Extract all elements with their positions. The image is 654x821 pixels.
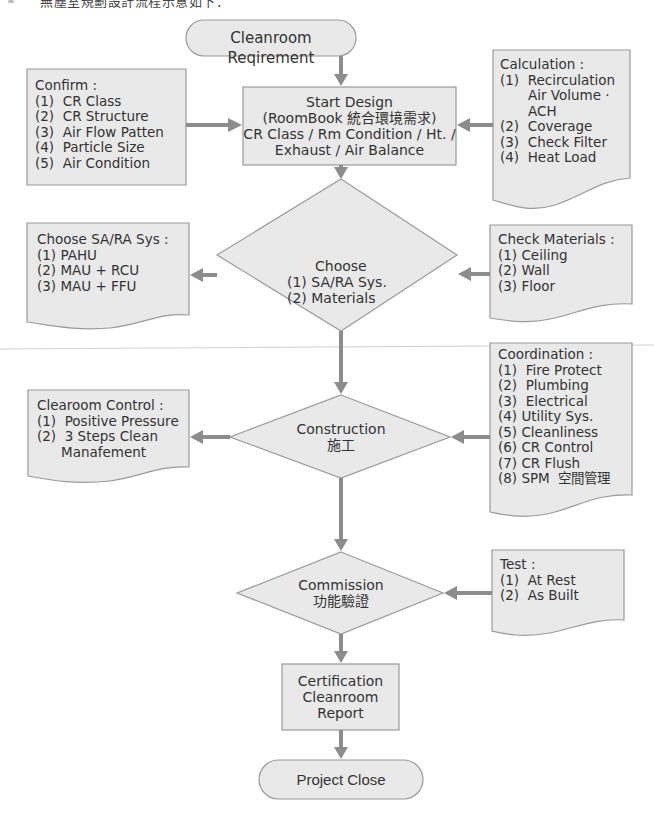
coordination-note-item: (3) Electrical <box>498 394 610 410</box>
choose-sys-note-title: Choose SA/RA Sys : <box>37 232 169 248</box>
start-node: Cleanroom Reqirement <box>186 28 356 68</box>
confirm-note-item: (3) Air Flow Patten <box>35 125 164 141</box>
choose-sys-note: Choose SA/RA Sys : (1) PAHU (2) MAU + RC… <box>37 232 169 294</box>
confirm-note-title: Confirm : <box>35 78 164 94</box>
choose-title: Choose <box>287 258 407 274</box>
start-design-line: Exhaust / Air Balance <box>243 142 456 158</box>
calculation-note-item: (4) Heat Load <box>500 150 615 166</box>
arrow-certification-to-end <box>334 730 348 759</box>
certification-line: Cleanroom <box>282 689 399 705</box>
choose-option: (1) SA/RA Sys. <box>287 274 407 290</box>
arrow-choose-to-sys <box>190 268 217 282</box>
test-note-title: Test : <box>500 557 579 573</box>
confirm-note-item: (1) CR Class <box>35 94 164 110</box>
clearoom-control-note-title: Clearoom Control : <box>37 398 179 414</box>
arrow-construction-to-control <box>190 430 230 444</box>
coordination-note-item: (2) Plumbing <box>498 378 610 394</box>
construction-subtitle: 施工 <box>276 437 406 453</box>
arrow-materials-to-choose <box>458 267 490 281</box>
coordination-note-item: (4) Utility Sys. <box>498 409 610 425</box>
arrow-confirm-to-design <box>186 118 242 132</box>
calculation-note-item-cont: Air Volume · <box>500 88 615 104</box>
coordination-note: Coordination : (1) Fire Protect (2) Plum… <box>498 347 610 487</box>
start-design-node: Start Design (RoomBook 統合環境需求) CR Class … <box>243 94 456 158</box>
check-materials-note: Check Materials : (1) Ceiling (2) Wall (… <box>498 232 615 294</box>
clearoom-control-note-item: (1) Positive Pressure <box>37 414 179 430</box>
start-design-line: CR Class / Rm Condition / Ht. / <box>243 126 456 142</box>
check-materials-note-title: Check Materials : <box>498 232 615 248</box>
commission-title: Commission <box>276 577 406 593</box>
arrow-choose-to-construction <box>334 331 348 394</box>
commission-node: Commission 功能驗證 <box>276 577 406 609</box>
coordination-note-item: (8) SPM 空間管理 <box>498 471 610 487</box>
arrow-construction-to-commission <box>334 478 348 551</box>
coordination-note-item: (7) CR Flush <box>498 456 610 472</box>
coordination-note-item: (1) Fire Protect <box>498 363 610 379</box>
clearoom-control-note: Clearoom Control : (1) Positive Pressure… <box>37 398 179 460</box>
choose-option: (2) Materials <box>287 290 407 306</box>
choose-node: Choose (1) SA/RA Sys. (2) Materials <box>287 258 407 306</box>
arrow-coordination-to-construction <box>451 430 490 444</box>
start-node-label: Cleanroom Reqirement <box>228 29 315 67</box>
choose-diamond-shape <box>217 179 457 331</box>
arrow-calculation-to-design <box>457 118 493 132</box>
certification-line: Report <box>282 705 399 721</box>
clearoom-control-note-item-cont: Manafement <box>37 445 179 461</box>
calculation-note-item: (2) Coverage <box>500 119 615 135</box>
construction-node: Construction 施工 <box>276 421 406 453</box>
test-note-item: (1) At Rest <box>500 573 579 589</box>
confirm-note-item: (5) Air Condition <box>35 156 164 172</box>
certification-line: Certification <box>282 673 399 689</box>
start-design-subtitle: (RoomBook 統合環境需求) <box>243 110 456 126</box>
certification-node: Certification Cleanroom Report <box>282 673 399 721</box>
check-materials-note-item: (3) Floor <box>498 279 615 295</box>
commission-subtitle: 功能驗證 <box>276 593 406 609</box>
calculation-note-item: (3) Check Filter <box>500 135 615 151</box>
construction-title: Construction <box>276 421 406 437</box>
choose-sys-note-item: (1) PAHU <box>37 248 169 264</box>
confirm-note-item: (4) Particle Size <box>35 140 164 156</box>
test-note: Test : (1) At Rest (2) As Built <box>500 557 579 604</box>
calculation-note-item: (1) Recirculation <box>500 73 615 89</box>
confirm-note: Confirm : (1) CR Class (2) CR Structure … <box>35 78 164 171</box>
confirm-note-item: (2) CR Structure <box>35 109 164 125</box>
choose-sys-note-item: (3) MAU + FFU <box>37 279 169 295</box>
arrow-design-to-choose <box>334 165 348 179</box>
coordination-note-item: (6) CR Control <box>498 440 610 456</box>
end-node: Project Close <box>259 770 423 790</box>
arrow-test-to-commission <box>444 586 492 600</box>
check-materials-note-item: (2) Wall <box>498 263 615 279</box>
test-note-item: (2) As Built <box>500 588 579 604</box>
choose-sys-note-item: (2) MAU + RCU <box>37 263 169 279</box>
end-node-label: Project Close <box>296 771 385 788</box>
check-materials-note-item: (1) Ceiling <box>498 248 615 264</box>
calculation-note: Calculation : (1) Recirculation Air Volu… <box>500 57 615 166</box>
calculation-note-item-cont: ACH <box>500 104 615 120</box>
start-design-title: Start Design <box>243 94 456 110</box>
coordination-note-title: Coordination : <box>498 347 610 363</box>
coordination-note-item: (5) Cleanliness <box>498 425 610 441</box>
clearoom-control-note-item: (2) 3 Steps Clean <box>37 429 179 445</box>
calculation-note-title: Calculation : <box>500 57 615 73</box>
arrow-commission-to-certification <box>334 634 348 663</box>
